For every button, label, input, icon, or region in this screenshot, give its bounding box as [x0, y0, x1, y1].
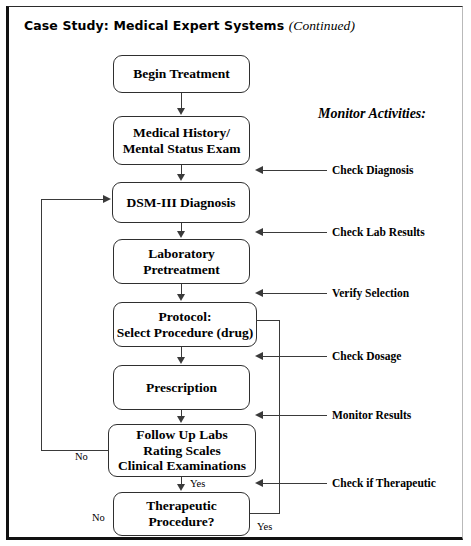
annotation-line-check-dosage [263, 356, 327, 357]
node-prescription[interactable]: Prescription [113, 365, 250, 410]
arrowhead-dsm-to-lab [177, 231, 185, 238]
loop-left-top-segment [41, 199, 104, 200]
node-line: Begin Treatment [133, 66, 229, 82]
node-line: Rating Scales [118, 443, 246, 459]
node-medical-history[interactable]: Medical History/ Mental Status Exam [113, 116, 250, 165]
node-line: Protocol: [117, 309, 254, 325]
node-line: Laboratory [143, 246, 220, 262]
annotation-check-dosage: Check Dosage [332, 350, 401, 362]
annotation-line-check-if-therapeutic [263, 483, 327, 484]
loop-right-top-segment [256, 320, 280, 321]
arrowhead-monitor-results [255, 411, 263, 419]
node-begin-treatment[interactable]: Begin Treatment [113, 55, 250, 93]
arrowhead-history-to-dsm [177, 174, 185, 181]
monitor-activities-heading: Monitor Activities: [318, 106, 426, 122]
arrowhead-verify-selection [255, 289, 263, 297]
loop-right-vertical-segment [279, 320, 280, 514]
annotation-line-check-lab-results [263, 232, 327, 233]
node-laboratory-pretreatment[interactable]: Laboratory Pretreatment [113, 239, 250, 284]
arrowhead-check-diagnosis [255, 166, 263, 174]
annotation-check-lab-results: Check Lab Results [332, 226, 425, 238]
flowchart-page: Case Study: Medical Expert Systems (Cont… [0, 0, 471, 546]
node-line: Procedure? [146, 514, 217, 530]
node-therapeutic-procedure[interactable]: Therapeutic Procedure? [113, 492, 250, 536]
page-title: Case Study: Medical Expert Systems (Cont… [24, 18, 355, 34]
annotation-verify-selection: Verify Selection [332, 287, 409, 299]
node-line: Prescription [146, 380, 217, 396]
annotation-line-check-diagnosis [263, 170, 327, 171]
arrowhead-loop-left-into-dsm [103, 195, 111, 203]
node-line: Therapeutic [146, 498, 217, 514]
arrowhead-lab-to-protocol [177, 294, 185, 301]
annotation-line-monitor-results [263, 415, 327, 416]
branch-label-follow-up-yes: Yes [190, 478, 205, 489]
annotation-line-verify-selection [263, 293, 327, 294]
annotation-check-diagnosis: Check Diagnosis [332, 164, 413, 176]
loop-right-bottom-segment [250, 513, 280, 514]
arrowhead-begin-to-history [177, 108, 185, 115]
node-follow-up-labs[interactable]: Follow Up Labs Rating Scales Clinical Ex… [108, 424, 256, 477]
branch-label-therapeutic-no: No [92, 512, 105, 523]
node-line: Mental Status Exam [123, 141, 241, 157]
node-protocol-select-procedure[interactable]: Protocol: Select Procedure (drug) [113, 302, 257, 347]
node-line: Pretreatment [143, 262, 220, 278]
annotation-check-if-therapeutic: Check if Therapeutic [332, 477, 436, 489]
page-title-main: Case Study: Medical Expert Systems [24, 18, 284, 33]
branch-label-follow-up-no: No [75, 451, 88, 462]
branch-label-therapeutic-yes: Yes [257, 521, 272, 532]
arrowhead-check-dosage [255, 352, 263, 360]
node-dsm-iii-diagnosis[interactable]: DSM-III Diagnosis [112, 182, 250, 223]
annotation-monitor-results: Monitor Results [332, 409, 411, 421]
node-line: DSM-III Diagnosis [126, 195, 235, 211]
arrowhead-prescription-to-follow [177, 416, 185, 423]
arrowhead-check-if-therapeutic [255, 479, 263, 487]
page-title-continued: (Continued) [289, 18, 355, 33]
node-line: Select Procedure (drug) [117, 325, 254, 341]
arrowhead-follow-to-therapeutic [177, 484, 185, 491]
node-line: Follow Up Labs [118, 427, 246, 443]
arrowhead-protocol-to-prescription [177, 357, 185, 364]
node-line: Medical History/ [123, 125, 241, 141]
node-line: Clinical Examinations [118, 458, 246, 474]
connector-begin-to-history [181, 93, 182, 109]
arrowhead-check-lab-results [255, 228, 263, 236]
loop-left-vertical-segment [41, 199, 42, 451]
